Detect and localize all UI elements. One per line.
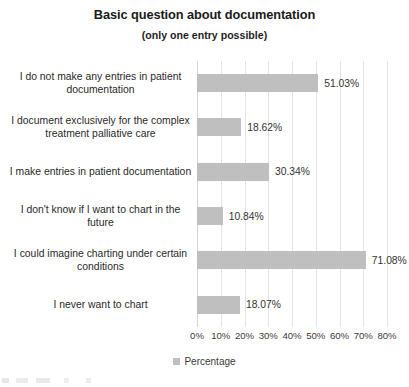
x-tick-label-0: 0% xyxy=(190,330,204,341)
x-tick-label-70: 70% xyxy=(354,330,373,341)
chart-subtitle: (only one entry possible) xyxy=(0,29,409,41)
legend-swatch-percentage xyxy=(173,358,180,365)
bar xyxy=(197,251,366,269)
bar-row: 10.84% xyxy=(197,194,387,238)
bar-series-percentage: 51.03%18.62%30.34%10.84%71.08%18.07% xyxy=(197,61,387,327)
category-label: I document exclusively for the complex t… xyxy=(8,105,193,149)
cropped-caption-remnant xyxy=(2,378,122,383)
category-label: I don't know if I want to chart in the f… xyxy=(8,194,193,238)
bar-row: 18.07% xyxy=(197,283,387,327)
category-label-text: I could imagine charting under certain c… xyxy=(8,247,193,273)
plot-area: 51.03%18.62%30.34%10.84%71.08%18.07% xyxy=(197,61,387,327)
x-tick-label-20: 20% xyxy=(235,330,254,341)
bar-value-label: 18.07% xyxy=(246,299,281,310)
category-label-text: I make entries in patient documentation xyxy=(8,165,193,178)
bar-row: 71.08% xyxy=(197,238,387,282)
bar xyxy=(197,74,318,92)
category-label: I never want to chart xyxy=(8,283,193,327)
category-label: I make entries in patient documentation xyxy=(8,150,193,194)
x-tick-label-80: 80% xyxy=(377,330,396,341)
category-label: I do not make any entries in patient doc… xyxy=(8,61,193,105)
x-tick-label-10: 10% xyxy=(211,330,230,341)
gridline-80 xyxy=(387,61,388,327)
bar-value-label: 51.03% xyxy=(324,78,359,89)
bar xyxy=(197,163,269,181)
bar-chart-figure: Basic question about documentation (only… xyxy=(0,0,409,387)
bar-value-label: 10.84% xyxy=(229,211,264,222)
bar xyxy=(197,207,223,225)
category-label-text: I do not make any entries in patient doc… xyxy=(8,70,193,96)
bar xyxy=(197,118,241,136)
x-tick-label-40: 40% xyxy=(282,330,301,341)
bar-row: 30.34% xyxy=(197,150,387,194)
category-axis-labels: I do not make any entries in patient doc… xyxy=(8,61,193,327)
bar-value-label: 71.08% xyxy=(372,255,407,266)
value-axis-ticks: 0%10%20%30%40%50%60%70%80% xyxy=(197,330,387,344)
x-tick-label-30: 30% xyxy=(259,330,278,341)
bar-value-label: 18.62% xyxy=(247,122,282,133)
bar-row: 18.62% xyxy=(197,105,387,149)
legend-label-percentage: Percentage xyxy=(184,356,235,367)
chart-legend: Percentage xyxy=(0,356,409,367)
chart-title: Basic question about documentation xyxy=(0,7,409,22)
category-label: I could imagine charting under certain c… xyxy=(8,238,193,282)
x-tick-label-60: 60% xyxy=(330,330,349,341)
category-label-text: I document exclusively for the complex t… xyxy=(8,114,193,140)
category-label-text: I don't know if I want to chart in the f… xyxy=(8,203,193,229)
bar-row: 51.03% xyxy=(197,61,387,105)
bar xyxy=(197,296,240,314)
x-tick-label-50: 50% xyxy=(306,330,325,341)
category-label-text: I never want to chart xyxy=(8,298,193,311)
bar-value-label: 30.34% xyxy=(275,166,310,177)
